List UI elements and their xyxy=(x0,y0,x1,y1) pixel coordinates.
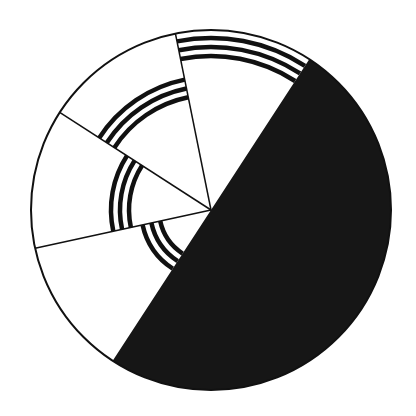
pie-diagram xyxy=(0,0,416,416)
